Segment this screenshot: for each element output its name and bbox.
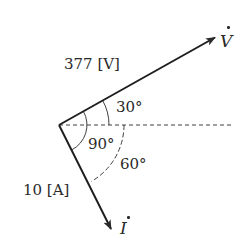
voltage-magnitude-label: 377 [V]: [64, 57, 120, 72]
phasor-diagram: 377 [V] V 30° 90° 60° 10 [A] I: [0, 0, 249, 252]
angle-30-label: 30°: [116, 100, 143, 115]
phasor-diagram-canvas: [0, 0, 249, 252]
voltage-dot-accent: [227, 26, 230, 29]
angle-arc-30: [102, 100, 109, 125]
current-magnitude-label: 10 [A]: [23, 183, 69, 198]
voltage-symbol: V: [220, 33, 232, 50]
angle-60-label: 60°: [120, 157, 147, 172]
angle-90-label: 90°: [88, 137, 115, 152]
current-dot-accent: [127, 216, 130, 219]
current-symbol: I: [120, 220, 127, 237]
